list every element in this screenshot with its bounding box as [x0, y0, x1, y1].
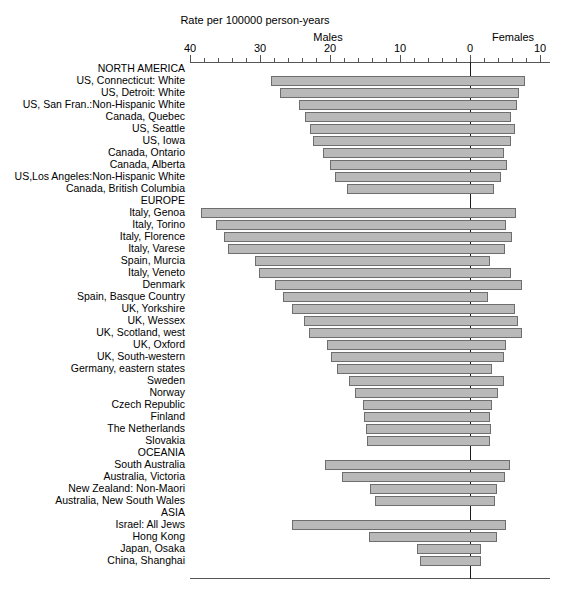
- axis-tick-minor: [484, 58, 485, 62]
- row-label: Hong Kong: [132, 530, 185, 542]
- axis-tick-label: 10: [534, 42, 546, 54]
- row-label: Japan, Osaka: [120, 542, 185, 554]
- axis-tick-minor: [498, 58, 499, 62]
- rate-bar: [224, 232, 512, 242]
- section-label: OCEANIA: [138, 446, 185, 458]
- rate-bar: [375, 496, 495, 506]
- row-label: UK, Wessex: [127, 314, 185, 326]
- row-label: Sweden: [147, 374, 185, 386]
- axis-tick-label: 20: [324, 42, 336, 54]
- row-label: Italy, Torino: [132, 218, 185, 230]
- data-row: Spain, Basque Country: [0, 291, 565, 303]
- rate-bar: [304, 316, 518, 326]
- row-label: Canada, Alberta: [110, 158, 185, 170]
- females-group-label: Females: [492, 31, 534, 43]
- rate-bar: [366, 424, 491, 434]
- row-label: Czech Republic: [111, 398, 185, 410]
- row-label: Canada, Ontario: [108, 146, 185, 158]
- axis-tick-minor: [232, 58, 233, 62]
- row-label: Italy, Florence: [120, 230, 185, 242]
- data-row: Italy, Veneto: [0, 267, 565, 279]
- data-row: UK, Yorkshire: [0, 303, 565, 315]
- rate-bar: [327, 340, 506, 350]
- axis-tick-minor: [344, 58, 345, 62]
- rate-bar: [305, 112, 512, 122]
- axis-tick-major: [470, 55, 471, 62]
- data-row: The Netherlands: [0, 423, 565, 435]
- data-row: US, Connecticut: White: [0, 75, 565, 87]
- data-row: UK, Oxford: [0, 339, 565, 351]
- axis-tick-label: 30: [254, 42, 266, 54]
- rate-bar: [369, 532, 497, 542]
- males-group-label: Males: [313, 31, 342, 43]
- rate-bar: [347, 184, 494, 194]
- axis-tick-label: 0: [467, 42, 473, 54]
- rate-bar: [299, 100, 517, 110]
- rate-bar: [292, 304, 515, 314]
- data-row: Israel: All Jews: [0, 519, 565, 531]
- section-label: EUROPE: [141, 194, 185, 206]
- row-label: Italy, Genoa: [129, 206, 185, 218]
- rate-bar: [271, 76, 525, 86]
- rate-bar: [335, 172, 501, 182]
- data-row: Australia, New South Wales: [0, 495, 565, 507]
- rate-bar: [275, 280, 522, 290]
- data-row: Norway: [0, 387, 565, 399]
- rate-bar: [255, 256, 490, 266]
- data-row: China, Shanghai: [0, 555, 565, 567]
- data-row: Spain, Murcia: [0, 255, 565, 267]
- axis-tick-major: [190, 55, 191, 62]
- data-row: US, Seattle: [0, 123, 565, 135]
- axis-tick-major: [330, 55, 331, 62]
- row-label: UK, South-western: [97, 350, 185, 362]
- row-label: US, Connecticut: White: [76, 74, 185, 86]
- rate-bar: [228, 244, 505, 254]
- axis-tick-minor: [386, 58, 387, 62]
- rate-bar: [216, 220, 506, 230]
- axis-tick-minor: [372, 58, 373, 62]
- data-row: Japan, Osaka: [0, 543, 565, 555]
- data-row: UK, Scotland, west: [0, 327, 565, 339]
- row-label: US, San Fran.:Non-Hispanic White: [23, 98, 185, 110]
- rate-bar: [367, 436, 490, 446]
- axis-tick-minor: [218, 58, 219, 62]
- data-row: Finland: [0, 411, 565, 423]
- axis-tick-minor: [526, 58, 527, 62]
- row-label: Spain, Murcia: [121, 254, 185, 266]
- rate-bar: [355, 388, 498, 398]
- data-row: US, San Fran.:Non-Hispanic White: [0, 99, 565, 111]
- axis-tick-major: [260, 55, 261, 62]
- axis-tick-minor: [302, 58, 303, 62]
- row-label: US, Seattle: [132, 122, 185, 134]
- data-row: Sweden: [0, 375, 565, 387]
- rate-bar: [363, 400, 492, 410]
- data-row: US, Iowa: [0, 135, 565, 147]
- row-label: Australia, New South Wales: [55, 494, 185, 506]
- row-label: Denmark: [142, 278, 185, 290]
- rate-bar: [292, 520, 506, 530]
- data-row: Canada, Quebec: [0, 111, 565, 123]
- row-label: US,Los Angeles:Non-Hispanic White: [15, 170, 185, 182]
- rate-bar: [364, 412, 490, 422]
- chart-title: Rate per 100000 person-years: [180, 14, 329, 26]
- axis-tick-minor: [204, 58, 205, 62]
- axis-tick-minor: [414, 58, 415, 62]
- row-label: Spain, Basque Country: [77, 290, 185, 302]
- data-row: South Australia: [0, 459, 565, 471]
- rate-bar: [349, 376, 504, 386]
- row-label: US, Detroit: White: [101, 86, 185, 98]
- axis-tick-minor: [456, 58, 457, 62]
- data-row: UK, Wessex: [0, 315, 565, 327]
- rate-bar: [280, 88, 519, 98]
- section-label: NORTH AMERICA: [98, 62, 185, 74]
- rate-bar: [309, 328, 522, 338]
- row-label: Israel: All Jews: [116, 518, 185, 530]
- data-row: Slovakia: [0, 435, 565, 447]
- rate-bar: [330, 160, 507, 170]
- rate-bar: [417, 544, 481, 554]
- data-row: Italy, Torino: [0, 219, 565, 231]
- axis-tick-minor: [512, 58, 513, 62]
- row-label: US, Iowa: [142, 134, 185, 146]
- axis-tick-minor: [288, 58, 289, 62]
- row-label: UK, Scotland, west: [96, 326, 185, 338]
